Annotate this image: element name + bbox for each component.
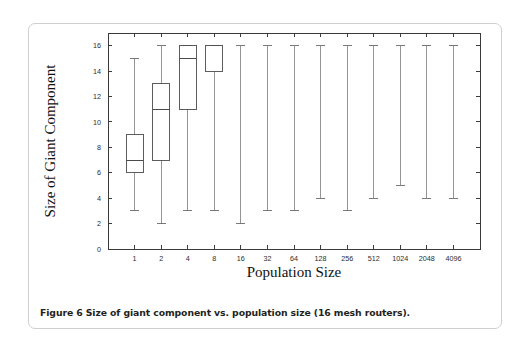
y-tick-label: 0: [97, 245, 101, 254]
boxplot-group: [236, 46, 245, 224]
figure-caption: Figure 6 Size of giant component vs. pop…: [40, 307, 491, 318]
chart-plot-area: 0246810121416124816326412825651210242048…: [29, 24, 503, 292]
boxplot-group: [179, 46, 196, 211]
x-tick-label: 32: [263, 254, 271, 263]
boxplot-group: [206, 46, 223, 211]
boxplot-group: [369, 46, 378, 198]
y-tick-label: 2: [97, 219, 101, 228]
boxplot-group: [263, 46, 272, 211]
box-iqr: [179, 46, 196, 110]
y-tick-label: 8: [97, 143, 101, 152]
y-tick-label: 10: [93, 118, 101, 127]
y-tick-label: 14: [93, 67, 101, 76]
boxplot-group: [316, 46, 325, 198]
boxplot-group: [126, 58, 143, 210]
x-axis-title: Population Size: [247, 264, 342, 280]
boxplot-chart: 0246810121416124816326412825651210242048…: [29, 24, 503, 292]
boxplot-group: [449, 46, 458, 198]
box-iqr: [153, 84, 170, 160]
boxplot-group: [422, 46, 431, 198]
box-iqr: [206, 46, 223, 71]
boxplot-group: [153, 46, 170, 224]
x-tick-label: 1024: [392, 254, 408, 263]
x-tick-label: 128: [315, 254, 327, 263]
y-axis-title: Size of Giant Component: [42, 64, 58, 218]
x-tick-label: 2048: [419, 254, 435, 263]
boxplot-group: [343, 46, 352, 211]
y-tick-label: 12: [93, 92, 101, 101]
x-tick-label: 64: [290, 254, 298, 263]
box-iqr: [126, 135, 143, 173]
y-tick-label: 6: [97, 168, 101, 177]
x-tick-label: 2: [159, 254, 163, 263]
y-tick-label: 16: [93, 41, 101, 50]
x-tick-label: 256: [341, 254, 353, 263]
x-tick-label: 16: [237, 254, 245, 263]
x-tick-label: 512: [368, 254, 380, 263]
figure-card: 0246810121416124816326412825651210242048…: [28, 23, 502, 329]
x-tick-label: 4: [186, 254, 190, 263]
x-tick-label: 8: [212, 254, 216, 263]
y-tick-label: 4: [97, 194, 101, 203]
boxplot-group: [290, 46, 299, 211]
boxplot-group: [396, 46, 405, 186]
x-tick-label: 4096: [445, 254, 461, 263]
x-tick-label: 1: [133, 254, 137, 263]
